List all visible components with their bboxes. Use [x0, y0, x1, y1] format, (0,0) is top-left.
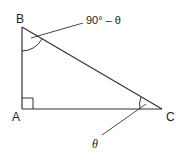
side-bc: [22, 27, 162, 109]
vertex-label-a: A: [12, 110, 20, 124]
angle-label-c: θ: [92, 137, 98, 151]
vertex-label-c: C: [166, 110, 175, 124]
vertex-label-b: B: [16, 12, 24, 26]
angle-arc-b: [22, 39, 42, 51]
right-triangle-diagram: B A C 90° – θ θ: [0, 0, 182, 161]
angle-label-b: 90° – θ: [86, 14, 121, 26]
right-angle-marker: [22, 98, 33, 109]
leader-line-b: [31, 23, 83, 38]
